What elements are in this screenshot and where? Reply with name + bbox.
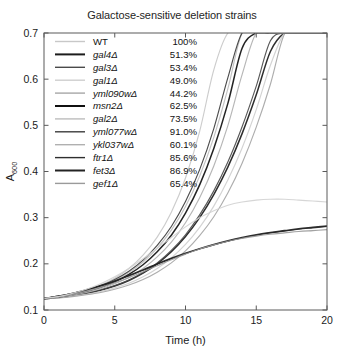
legend-label: ykl037wΔ	[92, 139, 134, 150]
y-tick-label: 0.3	[23, 211, 38, 223]
legend-label: gal3Δ	[93, 62, 118, 73]
y-tick-label: 0.6	[23, 73, 38, 85]
y-tick-label: 0.4	[23, 165, 38, 177]
legend-label: gal4Δ	[93, 49, 118, 60]
legend-percent: 100%	[172, 36, 197, 47]
legend-label: msn2Δ	[93, 100, 123, 111]
y-tick-label: 0.2	[23, 257, 38, 269]
y-axis-label: A600	[4, 162, 19, 182]
legend-percent: 44.2%	[170, 88, 198, 99]
legend-label: gal1Δ	[93, 75, 118, 86]
legend-label: yml077wΔ	[92, 126, 137, 137]
legend-label: WT	[93, 36, 108, 47]
legend-percent: 86.9%	[170, 165, 198, 176]
y-tick-label: 0.5	[23, 119, 38, 131]
x-tick-label: 10	[180, 314, 192, 326]
legend-label: gal2Δ	[93, 113, 118, 124]
x-tick-label: 5	[112, 314, 118, 326]
x-tick-label: 0	[41, 314, 47, 326]
legend: WT100%gal4Δ51.3%gal3Δ53.4%gal1Δ49.0%yml0…	[55, 36, 197, 189]
series-line-gef1	[44, 230, 327, 299]
legend-label: yml090wΔ	[92, 88, 137, 99]
growth-curve-plot: 051015200.10.20.30.40.50.60.7Time (h)A60…	[0, 0, 344, 354]
legend-label: ftr1Δ	[93, 152, 113, 163]
figure-container: Galactose-sensitive deletion strains 051…	[0, 0, 344, 354]
legend-label: gef1Δ	[93, 178, 118, 189]
legend-label: fet3Δ	[93, 165, 115, 176]
legend-percent: 91.0%	[170, 126, 198, 137]
legend-percent: 49.0%	[170, 75, 198, 86]
legend-percent: 73.5%	[170, 113, 198, 124]
x-tick-label: 15	[250, 314, 262, 326]
legend-percent: 51.3%	[170, 49, 198, 60]
y-tick-label: 0.1	[23, 304, 38, 316]
legend-percent: 85.6%	[170, 152, 198, 163]
legend-percent: 53.4%	[170, 62, 198, 73]
legend-percent: 62.5%	[170, 100, 198, 111]
legend-percent: 60.1%	[170, 139, 198, 150]
legend-percent: 65.4%	[170, 178, 198, 189]
x-tick-label: 20	[321, 314, 333, 326]
y-tick-label: 0.7	[23, 27, 38, 39]
x-axis-label: Time (h)	[165, 334, 206, 346]
